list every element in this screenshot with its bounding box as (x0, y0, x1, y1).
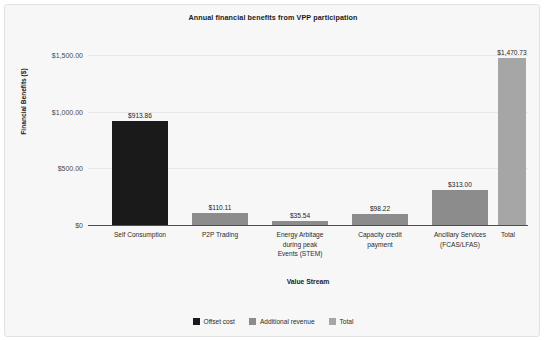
y-axis-title: Financial Benefits ($) (20, 32, 27, 172)
legend-swatch-offset-cost (193, 318, 200, 325)
legend-label: Total (340, 318, 354, 325)
x-tick-label-line: (FCAS/LFAS) (408, 240, 512, 250)
legend-label: Offset cost (204, 318, 235, 325)
x-tick-label-line: Events (STEM) (248, 249, 352, 259)
legend: Offset cost Additional revenue Total (5, 318, 541, 325)
y-tick-label: $1,000.00 (52, 108, 83, 115)
x-axis-title: Value Stream (88, 278, 528, 285)
y-tick-label: $0 (75, 222, 83, 229)
legend-swatch-total (329, 318, 336, 325)
bar-value-label: $35.54 (290, 212, 310, 219)
bar: $913.86 (112, 121, 168, 225)
x-tick-label: Total (476, 230, 540, 240)
bar-value-label: $98.22 (370, 205, 390, 212)
bar-value-label: $913.86 (128, 112, 152, 119)
bar: $1,470.73 (498, 58, 526, 225)
bar: $110.11 (192, 213, 248, 226)
y-tick-label: $500.00 (58, 165, 83, 172)
plot-area: $913.86 $110.11 $35.54 $98.22 $313.00 $1… (88, 55, 528, 225)
x-axis-line (88, 225, 528, 226)
gridline (88, 112, 528, 113)
legend-item: Offset cost (193, 318, 235, 325)
bar: $313.00 (432, 190, 488, 226)
legend-label: Additional revenue (260, 318, 315, 325)
chart-title: Annual financial benefits from VPP parti… (5, 13, 541, 22)
y-tick-label: $1,500.00 (52, 52, 83, 59)
legend-item: Total (329, 318, 354, 325)
x-tick-label-line: Total (476, 230, 540, 240)
chart-page: Annual financial benefits from VPP parti… (0, 0, 544, 341)
legend-item: Additional revenue (249, 318, 315, 325)
y-axis-ticks: $0 $500.00 $1,000.00 $1,500.00 (5, 55, 83, 225)
legend-swatch-additional-revenue (249, 318, 256, 325)
bar-value-label: $313.00 (448, 181, 472, 188)
bar-value-label: $1,470.73 (497, 49, 526, 56)
chart-panel: Annual financial benefits from VPP parti… (4, 4, 540, 337)
bar-value-label: $110.11 (209, 204, 232, 211)
gridline (88, 55, 528, 56)
bar: $98.22 (352, 214, 408, 225)
